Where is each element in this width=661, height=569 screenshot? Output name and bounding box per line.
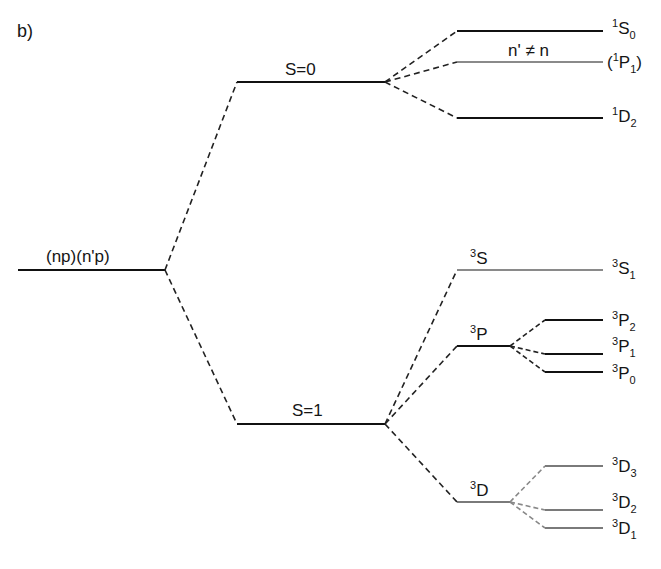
term-label-3D2: 3D2 [612, 492, 637, 515]
term-label-3P0: 3P0 [612, 363, 636, 386]
connector-singlet-to-1S0 [385, 31, 457, 82]
connector-singlet-to-1P1 [385, 62, 457, 82]
term-label-1P1: (1P1) [607, 52, 642, 75]
connector-3D-to-3D2 [510, 502, 545, 510]
config-label: (np)(n'p) [46, 248, 110, 265]
connector-3D-to-3D3 [510, 466, 545, 502]
connector-singlet-to-1D2 [385, 82, 457, 118]
term-label-3S: 3S [470, 248, 487, 267]
connector-triplet-to-3D [385, 424, 457, 502]
term-label-3P2: 3P2 [612, 310, 636, 333]
connector-config-to-singlet [165, 82, 237, 270]
connector-3P-to-3P1 [510, 346, 545, 354]
triplet-label: S=1 [292, 402, 323, 419]
term-label-3D1: 3D1 [612, 518, 637, 541]
panel-label: b) [17, 22, 33, 40]
term-label-1D2: 1D2 [612, 106, 637, 129]
connector-triplet-to-3S [385, 270, 457, 424]
singlet-label: S=0 [285, 61, 316, 78]
term-label-1S0: 1S0 [612, 18, 636, 41]
term-label-3S1: 3S1 [612, 258, 636, 281]
term-label-3D: 3D [470, 480, 488, 499]
connector-3P-to-3P2 [510, 320, 545, 346]
annotation-n-prime-neq-n: n' ≠ n [508, 42, 549, 59]
energy-level-diagram [0, 0, 661, 569]
term-label-3P: 3P [470, 324, 487, 343]
term-label-3P1: 3P1 [612, 336, 636, 359]
term-label-3D3: 3D3 [612, 456, 637, 479]
connector-triplet-to-3P [385, 346, 457, 424]
connector-config-to-triplet [165, 270, 237, 424]
